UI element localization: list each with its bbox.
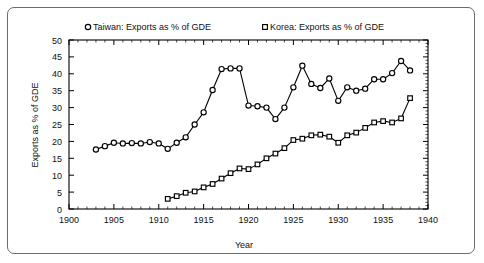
data-point: [282, 105, 287, 110]
x-tick-label: 1900: [59, 215, 79, 225]
y-tick-label: 35: [52, 86, 62, 96]
legend-square-icon: [263, 25, 268, 30]
y-tick-label: 40: [52, 69, 62, 79]
data-point: [291, 85, 296, 90]
data-point: [354, 88, 359, 93]
data-point: [246, 167, 251, 172]
data-point: [201, 185, 206, 190]
data-point: [129, 140, 134, 145]
data-point: [318, 132, 323, 137]
legend-item-label: Taiwan: Exports as % of GDE: [93, 22, 211, 32]
y-tick-label: 5: [57, 188, 62, 198]
data-point: [201, 110, 206, 115]
x-axis-label: Year: [235, 240, 253, 250]
data-point: [408, 96, 413, 101]
data-point: [264, 105, 269, 110]
data-point: [192, 122, 197, 127]
data-point: [138, 141, 143, 146]
y-tick-label: 30: [52, 103, 62, 113]
data-point: [183, 135, 188, 140]
legend-item-label: Korea: Exports as % of GDE: [270, 22, 384, 32]
x-axis-ticks: 190019051910191519201925193019351940: [59, 40, 438, 225]
data-point: [165, 146, 170, 151]
data-point: [390, 71, 395, 76]
exports-line-chart: Taiwan: Exports as % of GDEKorea: Export…: [0, 0, 484, 263]
x-tick-label: 1940: [418, 215, 438, 225]
chart-canvas: Taiwan: Exports as % of GDEKorea: Export…: [0, 0, 484, 263]
data-point: [291, 138, 296, 143]
data-point: [381, 77, 386, 82]
data-point: [237, 66, 242, 71]
y-tick-label: 20: [52, 137, 62, 147]
data-point: [273, 151, 278, 156]
data-point: [336, 140, 341, 145]
data-point: [219, 176, 224, 181]
x-tick-label: 1905: [104, 215, 124, 225]
data-point: [228, 171, 233, 176]
data-point: [345, 85, 350, 90]
data-point: [407, 68, 412, 73]
x-tick-label: 1925: [283, 215, 303, 225]
data-point: [372, 120, 377, 125]
series-line: [96, 61, 410, 150]
y-tick-label: 15: [52, 154, 62, 164]
data-point: [102, 144, 107, 149]
data-point: [300, 136, 305, 141]
data-point: [174, 140, 179, 145]
y-tick-label: 25: [52, 120, 62, 130]
data-point: [309, 81, 314, 86]
data-point: [237, 166, 242, 171]
data-point: [300, 63, 305, 68]
data-point: [174, 194, 179, 199]
legend-item: Taiwan: Exports as % of GDE: [85, 22, 211, 32]
data-point: [93, 147, 98, 152]
data-point: [345, 133, 350, 138]
data-point: [399, 116, 404, 121]
x-tick-label: 1920: [238, 215, 258, 225]
series-taiwan: [93, 58, 412, 152]
data-point: [398, 58, 403, 63]
data-point: [354, 130, 359, 135]
data-point: [192, 189, 197, 194]
data-point: [363, 126, 368, 131]
data-point: [309, 133, 314, 138]
data-point: [219, 66, 224, 71]
data-point: [282, 146, 287, 151]
data-point: [183, 190, 188, 195]
y-axis-label: Exports as % of GDE: [30, 82, 40, 167]
data-point: [318, 85, 323, 90]
data-point: [264, 156, 269, 161]
y-tick-label: 10: [52, 171, 62, 181]
x-tick-label: 1930: [328, 215, 348, 225]
chart-legend: Taiwan: Exports as % of GDEKorea: Export…: [85, 22, 384, 32]
data-point: [246, 103, 251, 108]
y-tick-label: 0: [57, 205, 62, 215]
data-point: [390, 120, 395, 125]
legend-circle-icon: [85, 24, 90, 29]
data-series-layer: [93, 58, 412, 201]
y-tick-label: 50: [52, 36, 62, 46]
data-point: [111, 140, 116, 145]
x-tick-label: 1910: [149, 215, 169, 225]
data-point: [210, 87, 215, 92]
data-point: [228, 66, 233, 71]
data-point: [381, 119, 386, 124]
x-tick-label: 1915: [194, 215, 214, 225]
data-point: [363, 86, 368, 91]
data-point: [336, 98, 341, 103]
data-point: [327, 76, 332, 81]
data-point: [327, 134, 332, 139]
data-point: [372, 77, 377, 82]
data-point: [156, 141, 161, 146]
data-point: [147, 139, 152, 144]
legend-item: Korea: Exports as % of GDE: [263, 22, 384, 32]
data-point: [255, 162, 260, 167]
y-tick-label: 45: [52, 52, 62, 62]
data-point: [165, 197, 170, 202]
data-point: [210, 182, 215, 187]
data-point: [273, 116, 278, 121]
data-point: [120, 141, 125, 146]
data-point: [255, 104, 260, 109]
x-tick-label: 1935: [373, 215, 393, 225]
